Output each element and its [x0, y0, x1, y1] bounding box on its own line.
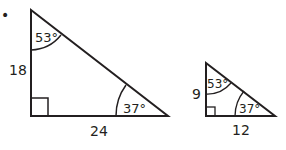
similar-triangles-diagram: • 53° 37° 18 24 53° 37° 9 12	[0, 0, 286, 150]
large-triangle: 53° 37° 18 24	[9, 10, 168, 139]
small-right-angle-marker	[206, 107, 215, 116]
large-triangle-outline	[31, 10, 168, 116]
large-vertical-side-label: 18	[9, 62, 27, 78]
small-top-angle-label: 53°	[207, 77, 228, 91]
large-right-angle-label: 37°	[123, 101, 146, 116]
small-right-angle-label: 37°	[239, 102, 260, 116]
small-vertical-side-label: 9	[192, 86, 201, 102]
small-horizontal-side-label: 12	[232, 122, 250, 138]
large-right-angle-marker	[31, 98, 48, 116]
small-triangle: 53° 37° 9 12	[192, 63, 275, 138]
large-horizontal-side-label: 24	[90, 123, 108, 139]
large-top-angle-label: 53°	[35, 30, 58, 45]
list-bullet: •	[1, 7, 9, 23]
